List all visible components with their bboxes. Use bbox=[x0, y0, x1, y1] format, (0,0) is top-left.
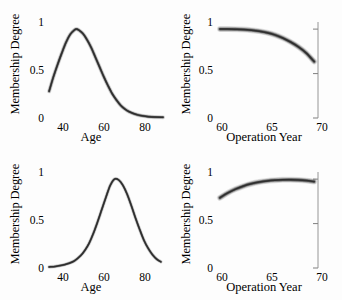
x-axis-label: Operation Year bbox=[189, 281, 339, 294]
y-tick-0: 0 bbox=[10, 113, 44, 125]
x-axis-label: Age bbox=[26, 281, 156, 294]
y-tick-05: 0.5 bbox=[10, 65, 44, 77]
panel-bottom-right: Membership Degree 1 0.5 0 60 65 70 Opera… bbox=[171, 150, 342, 300]
x-axis-label: Operation Year bbox=[189, 131, 339, 144]
y-tick-1: 1 bbox=[10, 167, 44, 179]
y-tick-0: 0 bbox=[179, 263, 213, 275]
y-tick-1: 1 bbox=[179, 17, 213, 29]
y-tick-1: 1 bbox=[10, 17, 44, 29]
y-tick-0: 0 bbox=[179, 113, 213, 125]
y-tick-05: 0.5 bbox=[10, 215, 44, 227]
panel-top-right: Membership Degree 1 0.5 0 60 65 70 Opera… bbox=[171, 0, 342, 150]
panel-top-left: Membership Degree 1 0.5 0 40 60 80 Age bbox=[0, 0, 171, 150]
membership-function-figure: Membership Degree 1 0.5 0 40 60 80 Age M… bbox=[0, 0, 342, 300]
y-tick-05: 0.5 bbox=[179, 215, 213, 227]
y-tick-1: 1 bbox=[179, 167, 213, 179]
panel-bottom-left: Membership Degree 1 0.5 0 40 60 80 Age bbox=[0, 150, 171, 300]
y-tick-05: 0.5 bbox=[179, 65, 213, 77]
y-tick-0: 0 bbox=[10, 263, 44, 275]
x-axis-label: Age bbox=[26, 131, 156, 144]
